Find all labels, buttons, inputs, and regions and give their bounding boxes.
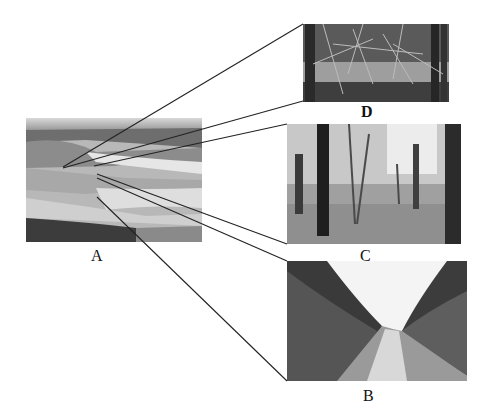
connector-lines <box>0 0 491 417</box>
connector-a-b-top <box>97 178 287 261</box>
connector-a-c-top <box>94 124 287 166</box>
connector-a-c-bottom <box>97 174 287 244</box>
connector-a-d-bottom <box>63 101 303 168</box>
connector-a-d-top <box>63 24 303 167</box>
connector-a-b-bottom <box>97 197 287 381</box>
